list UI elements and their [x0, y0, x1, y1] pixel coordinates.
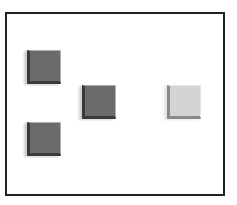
square-face: [167, 85, 201, 119]
dark-square-center: [82, 85, 116, 119]
light-square-right: [167, 85, 201, 119]
dark-square-bottom-left: [27, 122, 61, 156]
square-face: [27, 122, 61, 156]
square-face: [82, 85, 116, 119]
square-face: [27, 50, 61, 84]
diagram-frame: [5, 12, 225, 196]
dark-square-top-left: [27, 50, 61, 84]
